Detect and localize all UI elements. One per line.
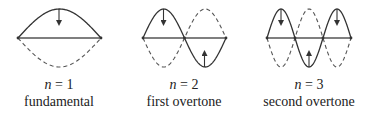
node-dot — [294, 37, 297, 40]
mode-1-equation: n = 1 — [0, 77, 119, 93]
mode-1-wave — [17, 9, 103, 67]
node-dot — [225, 37, 228, 40]
mode-3-number: 3 — [316, 77, 323, 92]
node-dot — [266, 37, 269, 40]
mode-1-name: fundamental — [0, 94, 119, 110]
mode-2-wave — [142, 9, 228, 67]
mode-1-number: 1 — [66, 77, 73, 92]
node-dot — [183, 37, 186, 40]
node-dot — [322, 37, 325, 40]
mode-2-name: first overtone — [124, 94, 244, 110]
mode-3-equals: = — [302, 77, 317, 92]
node-dot — [350, 37, 353, 40]
mode-2-variable: n — [170, 77, 177, 92]
mode-1-equals: = — [52, 77, 67, 92]
dashed-wave-curve — [18, 38, 101, 67]
mode-3-name: second overtone — [249, 94, 365, 110]
mode-3-equation: n = 3 — [249, 77, 365, 93]
node-dot — [142, 37, 145, 40]
node-dot — [17, 37, 20, 40]
node-dot — [100, 37, 103, 40]
mode-3-variable: n — [295, 77, 302, 92]
mode-2-equation: n = 2 — [124, 77, 244, 93]
mode-2-equals: = — [177, 77, 192, 92]
mode-2-number: 2 — [191, 77, 198, 92]
mode-3-wave — [266, 9, 353, 67]
mode-1-variable: n — [45, 77, 52, 92]
